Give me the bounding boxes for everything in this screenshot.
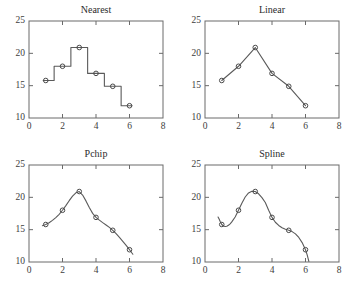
x-tick-label: 0 <box>27 265 32 275</box>
y-tick-label: 20 <box>192 192 202 202</box>
interpolated-curve <box>43 48 132 106</box>
y-tick-label: 20 <box>16 192 26 202</box>
x-tick-label: 6 <box>303 265 308 275</box>
y-tick-label: 25 <box>192 159 202 169</box>
chart-title: Pchip <box>85 148 108 159</box>
axes-frame <box>205 21 339 118</box>
chart-title: Spline <box>259 148 285 159</box>
chart-panel-linear: Linear0246810152025 <box>176 0 351 144</box>
y-tick-label: 10 <box>192 112 202 122</box>
x-tick-label: 4 <box>94 121 99 131</box>
interpolated-curve <box>42 192 132 255</box>
x-tick-label: 6 <box>127 265 132 275</box>
x-tick-label: 8 <box>161 265 166 275</box>
x-tick-label: 4 <box>270 121 275 131</box>
x-tick-label: 8 <box>337 265 342 275</box>
x-tick-label: 2 <box>60 121 65 131</box>
x-tick-label: 0 <box>203 121 208 131</box>
y-tick-label: 20 <box>16 48 26 58</box>
chart-panel-spline: Spline0246810152025 <box>176 144 351 288</box>
y-tick-label: 15 <box>192 80 202 90</box>
chart-title: Nearest <box>81 4 112 15</box>
y-tick-label: 15 <box>16 224 26 234</box>
y-tick-label: 25 <box>16 15 26 25</box>
axes-frame <box>205 165 339 262</box>
x-tick-label: 2 <box>236 265 241 275</box>
y-tick-label: 10 <box>16 112 26 122</box>
chart-panel-nearest: Nearest0246810152025 <box>0 0 175 144</box>
interpolated-curve <box>222 48 306 106</box>
x-tick-label: 8 <box>161 121 166 131</box>
y-tick-label: 25 <box>16 159 26 169</box>
axes-frame <box>29 21 163 118</box>
y-tick-label: 20 <box>192 48 202 58</box>
x-tick-label: 0 <box>203 265 208 275</box>
chart-title: Linear <box>259 4 286 15</box>
interpolated-curve <box>218 191 309 261</box>
axes-frame <box>29 165 163 262</box>
y-tick-label: 10 <box>192 256 202 266</box>
x-tick-label: 8 <box>337 121 342 131</box>
x-tick-label: 6 <box>127 121 132 131</box>
x-tick-label: 6 <box>303 121 308 131</box>
x-tick-label: 4 <box>270 265 275 275</box>
y-tick-label: 15 <box>192 224 202 234</box>
y-tick-label: 15 <box>16 80 26 90</box>
x-tick-label: 0 <box>27 121 32 131</box>
chart-panel-pchip: Pchip0246810152025 <box>0 144 175 288</box>
interpolation-figure: Nearest0246810152025Linear0246810152025P… <box>0 0 351 288</box>
x-tick-label: 2 <box>236 121 241 131</box>
x-tick-label: 4 <box>94 265 99 275</box>
y-tick-label: 10 <box>16 256 26 266</box>
y-tick-label: 25 <box>192 15 202 25</box>
x-tick-label: 2 <box>60 265 65 275</box>
